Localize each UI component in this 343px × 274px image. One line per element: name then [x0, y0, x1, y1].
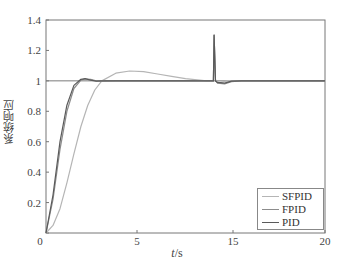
legend-swatch-fpid: [262, 209, 279, 210]
y-axis-title: 系统响应: [3, 100, 17, 144]
y-tick-label: 0.2: [27, 197, 41, 209]
x-tick-label: 20: [320, 235, 332, 247]
legend-item-sfpid: SFPID: [258, 190, 323, 202]
y-tick-label: 0.8: [27, 105, 41, 117]
legend-label: PID: [282, 216, 300, 228]
legend: SFPID FPID PID: [257, 188, 324, 230]
y-tick-label: 1.2: [27, 44, 41, 56]
legend-label: FPID: [282, 203, 306, 215]
x-origin-label: 0: [37, 235, 43, 247]
legend-swatch-sfpid: [262, 196, 279, 197]
y-tick-label: 1.4: [27, 14, 41, 26]
x-axis-title: t/s: [171, 246, 183, 260]
x-tick-label: 5: [134, 235, 140, 247]
legend-item-fpid: FPID: [258, 203, 323, 215]
legend-swatch-pid: [262, 222, 279, 223]
line-chart: 0.20.40.60.811.21.4 51520 t/s 0: [0, 0, 343, 274]
legend-item-pid: PID: [258, 216, 323, 228]
y-tick-label: 0.6: [27, 136, 41, 148]
legend-label: SFPID: [282, 190, 312, 202]
y-tick-label: 0.4: [27, 166, 41, 178]
y-tick-label: 1: [36, 75, 42, 87]
x-tick-label: 15: [228, 235, 240, 247]
